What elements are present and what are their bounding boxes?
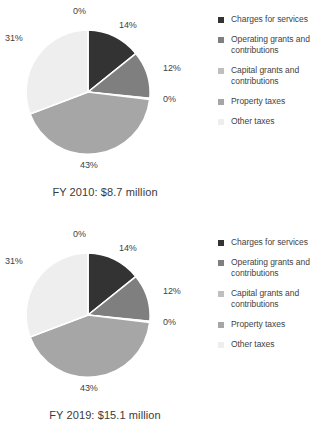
legend-item-capital-grants[interactable]: Capital grants and contributions (218, 288, 334, 310)
legend-fy2010: Charges for services Operating grants an… (218, 14, 334, 136)
pie-figure-fy2010: 0% 14% 12% 0% 43% 31% FY 2010: $8.7 mill… (0, 0, 334, 223)
legend-item-charges-for-services[interactable]: Charges for services (218, 14, 334, 25)
pie-label-other-taxes-fy2010: 31% (5, 33, 23, 43)
pie-label-property-taxes-fy2019: 43% (80, 383, 98, 393)
legend-label-charges-for-services: Charges for services (231, 14, 308, 25)
legend-swatch-icon-other-taxes (218, 342, 224, 348)
pie-label-property-taxes-fy2010: 43% (80, 160, 98, 170)
legend-swatch-icon-operating-grants (218, 37, 224, 43)
pie-label-operating-grants-fy2019: 12% (163, 286, 181, 296)
pie-label-capital-grants-fy2010: 0% (163, 94, 176, 104)
pie-label-capital-grants-fy2019: 0% (163, 317, 176, 327)
legend-label-charges-for-services: Charges for services (231, 237, 308, 248)
legend-item-charges-for-services[interactable]: Charges for services (218, 237, 334, 248)
pie-label-other-taxes-fy2019: 31% (5, 256, 23, 266)
pie-label-charges-for-services-fy2019: 14% (119, 243, 137, 253)
legend-item-property-taxes[interactable]: Property taxes (218, 96, 334, 107)
pie-label-top-fy2019: 0% (73, 229, 86, 239)
legend-label-property-taxes: Property taxes (231, 319, 285, 330)
legend-fy2019: Charges for services Operating grants an… (218, 237, 334, 359)
legend-label-operating-grants: Operating grants and contributions (231, 257, 334, 279)
legend-label-other-taxes: Other taxes (231, 339, 274, 350)
legend-swatch-icon-charges-for-services (218, 17, 224, 23)
legend-label-capital-grants: Capital grants and contributions (231, 65, 334, 87)
legend-label-capital-grants: Capital grants and contributions (231, 288, 334, 310)
chart-area-fy2019: 0% 14% 12% 0% 43% 31% FY 2019: $15.1 mil… (0, 223, 210, 408)
pie-label-operating-grants-fy2010: 12% (163, 63, 181, 73)
legend-swatch-icon-capital-grants (218, 291, 224, 297)
chart-area-fy2010: 0% 14% 12% 0% 43% 31% FY 2010: $8.7 mill… (0, 0, 210, 185)
pie-label-charges-for-services-fy2010: 14% (119, 20, 137, 30)
legend-label-other-taxes: Other taxes (231, 116, 274, 127)
legend-item-property-taxes[interactable]: Property taxes (218, 319, 334, 330)
legend-label-property-taxes: Property taxes (231, 96, 285, 107)
legend-label-operating-grants: Operating grants and contributions (231, 34, 334, 56)
legend-item-operating-grants[interactable]: Operating grants and contributions (218, 34, 334, 56)
legend-item-operating-grants[interactable]: Operating grants and contributions (218, 257, 334, 279)
legend-swatch-icon-charges-for-services (218, 240, 224, 246)
legend-swatch-icon-property-taxes (218, 99, 224, 105)
pie-label-top-fy2010: 0% (73, 6, 86, 16)
chart-caption-fy2010: FY 2010: $8.7 million (0, 186, 210, 198)
legend-swatch-icon-operating-grants (218, 260, 224, 266)
pie-chart-fy2019 (24, 251, 152, 379)
legend-item-other-taxes[interactable]: Other taxes (218, 339, 334, 350)
legend-swatch-icon-other-taxes (218, 119, 224, 125)
legend-item-other-taxes[interactable]: Other taxes (218, 116, 334, 127)
legend-swatch-icon-capital-grants (218, 68, 224, 74)
pie-chart-fy2010 (24, 28, 152, 156)
pie-figure-fy2019: 0% 14% 12% 0% 43% 31% FY 2019: $15.1 mil… (0, 223, 334, 446)
legend-swatch-icon-property-taxes (218, 322, 224, 328)
chart-caption-fy2019: FY 2019: $15.1 million (0, 409, 210, 421)
legend-item-capital-grants[interactable]: Capital grants and contributions (218, 65, 334, 87)
